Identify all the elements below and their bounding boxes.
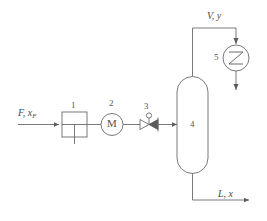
feed-stream-label: F, xF (18, 108, 37, 118)
bottoms-stream-label: L, x (218, 189, 233, 199)
vapor-composition: y (217, 10, 221, 21)
feed-separator: , (23, 107, 26, 118)
equipment-tag-1: 1 (71, 101, 76, 110)
pump-motor-letter: M (107, 118, 117, 129)
bottoms-composition: x (229, 188, 233, 199)
equipment-tag-3: 3 (144, 102, 149, 111)
equipment-3-control-valve (140, 113, 158, 132)
equipment-tag-4: 4 (190, 120, 195, 129)
vapor-separator: , (212, 10, 215, 21)
equipment-5-condenser (223, 45, 249, 71)
equipment-tag-2: 2 (109, 99, 114, 108)
bottoms-separator: , (224, 188, 227, 199)
vapor-stream-label: V, y (207, 11, 221, 21)
equipment-1-feed-tank (62, 112, 87, 144)
feed-composition-subscript: F (32, 112, 36, 120)
process-flow-diagram: F, xF V, y L, x 1 2 3 4 5 M (0, 0, 267, 221)
equipment-tag-5: 5 (214, 53, 219, 62)
